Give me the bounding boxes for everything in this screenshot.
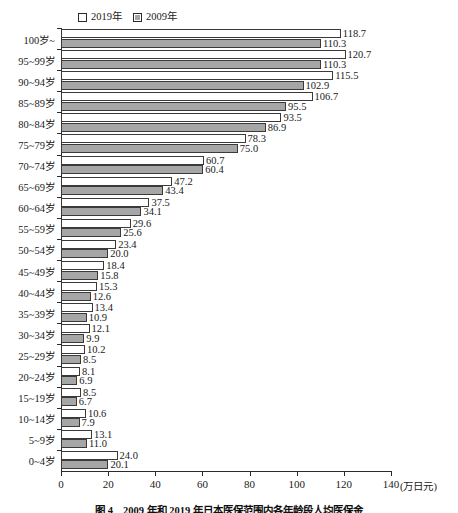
bar-2009: [61, 397, 77, 406]
y-axis-category-label: 5~9岁: [29, 432, 55, 447]
bar-2009: [61, 228, 121, 237]
bar-row: 50~54岁23.420.0: [61, 239, 391, 260]
bar-row: 60~64岁37.534.1: [61, 197, 391, 218]
x-axis-tick-label: 20: [103, 478, 114, 490]
y-axis-category-label: 25~29岁: [18, 347, 55, 362]
bar-2009: [61, 165, 203, 174]
bar-row: 40~44岁15.312.6: [61, 281, 391, 302]
bar-value-label: 43.4: [165, 186, 183, 195]
bar-2009: [61, 271, 98, 280]
bar-value-label: 8.5: [83, 355, 96, 364]
bar-2019: [61, 303, 93, 312]
bar-value-label: 12.1: [92, 324, 110, 333]
x-axis-unit-label: (万日元): [400, 478, 437, 493]
bar-2009: [61, 355, 81, 364]
x-axis-tick-label: 120: [336, 478, 353, 490]
bar-2019: [61, 451, 118, 460]
bar-row: 65~69岁47.243.4: [61, 176, 391, 197]
y-axis-category-label: 10~14岁: [18, 411, 55, 426]
bar-value-label: 12.6: [93, 292, 111, 301]
bar-value-label: 86.9: [268, 123, 286, 132]
bar-row: 10~14岁10.67.9: [61, 408, 391, 429]
x-axis-tick-label: 40: [150, 478, 161, 490]
bar-value-label: 93.5: [283, 113, 301, 122]
bar-2019: [61, 345, 85, 354]
x-axis-tick-label: 100: [288, 478, 305, 490]
bar-row: 90~94岁115.5102.9: [61, 70, 391, 91]
bar-row: 85~89岁106.795.5: [61, 91, 391, 112]
bar-2019: [61, 219, 131, 228]
bar-2009: [61, 313, 87, 322]
bar-2019: [61, 324, 90, 333]
y-axis-category-label: 95~99岁: [18, 52, 55, 67]
plot-area: 020406080100120140(万日元) 100岁~118.7110.39…: [61, 28, 391, 471]
bar-value-label: 75.0: [240, 144, 258, 153]
bar-value-label: 7.9: [82, 418, 95, 427]
x-axis-tick: [61, 471, 62, 476]
y-axis-category-label: 45~49岁: [18, 263, 55, 278]
y-axis-category-label: 75~79岁: [18, 137, 55, 152]
x-axis-tick-label: 0: [58, 478, 64, 490]
bar-value-label: 18.4: [106, 261, 124, 270]
bar-2019: [61, 92, 313, 101]
y-axis-category-label: 15~19岁: [18, 390, 55, 405]
y-axis-category-label: 30~34岁: [18, 326, 55, 341]
bar-value-label: 15.8: [100, 271, 118, 280]
y-axis-category-label: 60~64岁: [18, 200, 55, 215]
bar-2019: [61, 261, 104, 270]
bar-2009: [61, 60, 321, 69]
bar-row: 30~34岁12.19.9: [61, 323, 391, 344]
bar-row: 35~39岁13.410.9: [61, 302, 391, 323]
bar-2019: [61, 134, 246, 143]
legend-label-2009: 2009年: [146, 12, 177, 23]
y-axis-category-label: 35~39岁: [18, 305, 55, 320]
bar-2019: [61, 282, 97, 291]
bar-row: 70~74岁60.760.4: [61, 155, 391, 176]
y-axis-category-label: 65~69岁: [18, 179, 55, 194]
x-axis-tick: [391, 471, 392, 476]
bar-2019: [61, 156, 204, 165]
bar-2019: [61, 367, 80, 376]
bar-value-label: 13.4: [95, 303, 113, 312]
open-square-icon: [78, 13, 87, 22]
bar-row: 20~24岁8.16.9: [61, 366, 391, 387]
bar-2019: [61, 71, 333, 80]
bar-row: 0~4岁24.020.1: [61, 450, 391, 471]
bar-2019: [61, 430, 92, 439]
bar-2009: [61, 460, 108, 469]
bar-2019: [61, 50, 346, 59]
y-axis-category-label: 80~84岁: [18, 115, 55, 130]
bar-2009: [61, 144, 238, 153]
bar-value-label: 95.5: [288, 102, 306, 111]
bar-value-label: 20.0: [110, 249, 128, 258]
bar-2009: [61, 186, 163, 195]
y-axis-category-label: 100岁~: [24, 31, 55, 46]
bar-2019: [61, 198, 149, 207]
bar-value-label: 11.0: [89, 439, 107, 448]
legend-label-2019: 2019年: [91, 12, 122, 23]
bar-row: 25~29岁10.28.5: [61, 344, 391, 365]
y-axis-category-label: 85~89岁: [18, 94, 55, 109]
x-axis-tick-label: 60: [197, 478, 208, 490]
y-axis-category-label: 70~74岁: [18, 158, 55, 173]
x-axis-tick-label: 80: [244, 478, 255, 490]
bar-row: 55~59岁29.625.6: [61, 218, 391, 239]
chart-legend: 2019年 2009年: [78, 9, 177, 25]
bar-value-label: 6.9: [79, 376, 92, 385]
bar-value-label: 9.9: [86, 334, 99, 343]
bar-value-label: 6.7: [79, 397, 92, 406]
bar-value-label: 106.7: [315, 92, 339, 101]
filled-square-icon: [133, 13, 142, 22]
bar-value-label: 102.9: [306, 81, 330, 90]
bar-2019: [61, 240, 116, 249]
bar-row: 95~99岁120.7110.3: [61, 49, 391, 70]
bar-row: 75~79岁78.375.0: [61, 133, 391, 154]
legend-entry-2009: 2009年: [133, 12, 177, 23]
bar-value-label: 15.3: [99, 282, 117, 291]
y-axis-category-label: 90~94岁: [18, 73, 55, 88]
bar-2009: [61, 123, 266, 132]
y-axis-category-label: 40~44岁: [18, 284, 55, 299]
bar-2019: [61, 177, 172, 186]
x-axis-tick: [202, 471, 203, 476]
x-axis-line: [61, 471, 391, 472]
